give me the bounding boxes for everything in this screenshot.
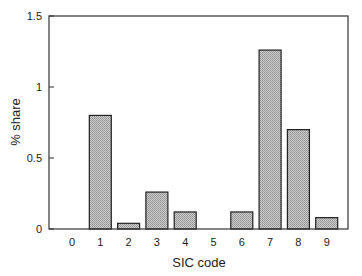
bar-sic-8 — [287, 130, 309, 229]
x-tick-label: 3 — [154, 236, 160, 248]
x-tick-label: 5 — [210, 236, 216, 248]
bar-sic-9 — [316, 218, 338, 229]
bar-sic-7 — [259, 50, 281, 229]
y-tick-label: 1.5 — [27, 10, 42, 22]
x-tick-label: 2 — [126, 236, 132, 248]
y-tick-label: 0 — [36, 223, 42, 235]
bar-sic-6 — [231, 212, 253, 229]
bar-sic-1 — [89, 115, 111, 229]
x-axis-label: SIC code — [172, 255, 225, 270]
y-tick-label: 1 — [36, 81, 42, 93]
y-tick-label: 0.5 — [27, 152, 42, 164]
y-axis-label: % share — [8, 98, 23, 146]
bars — [89, 50, 337, 229]
x-tick-label: 7 — [267, 236, 273, 248]
y-axis-ticks: 00.511.5 — [27, 10, 54, 235]
x-tick-label: 4 — [182, 236, 188, 248]
bar-sic-2 — [118, 223, 140, 229]
x-tick-label: 8 — [295, 236, 301, 248]
x-tick-label: 6 — [239, 236, 245, 248]
bar-chart: 00.511.5 0123456789 SIC code % share — [0, 0, 362, 276]
x-tick-label: 1 — [97, 236, 103, 248]
bar-sic-4 — [174, 212, 196, 229]
bar-sic-3 — [146, 192, 168, 229]
x-tick-label: 0 — [69, 236, 75, 248]
x-tick-label: 9 — [324, 236, 330, 248]
x-axis-ticks: 0123456789 — [69, 236, 330, 248]
